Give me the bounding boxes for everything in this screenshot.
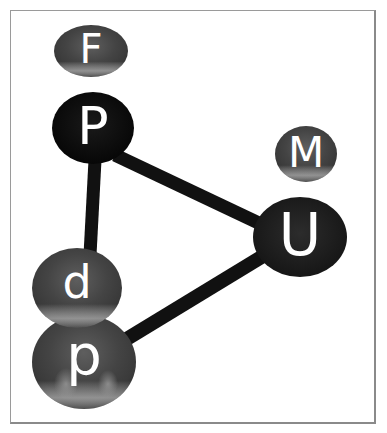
graph-canvas: F P M U p d — [0, 0, 387, 433]
edge-u-p — [125, 253, 268, 340]
node-label-M: M — [288, 128, 324, 177]
edge-p-u — [115, 155, 265, 226]
node-label-P: P — [77, 96, 108, 156]
node-label-U: U — [279, 201, 321, 269]
node-p-lower[interactable]: p — [32, 315, 136, 409]
node-P[interactable]: P — [52, 92, 134, 164]
node-label-p: p — [66, 322, 102, 387]
node-label-F: F — [79, 26, 102, 72]
node-U[interactable]: U — [253, 197, 347, 277]
node-d[interactable]: d — [32, 248, 122, 328]
node-label-d: d — [62, 255, 91, 309]
edge-p-d — [90, 160, 95, 255]
edges — [90, 155, 268, 340]
node-M[interactable]: M — [275, 126, 337, 182]
nodes: F P M U p d — [32, 25, 347, 409]
node-F[interactable]: F — [54, 25, 128, 77]
